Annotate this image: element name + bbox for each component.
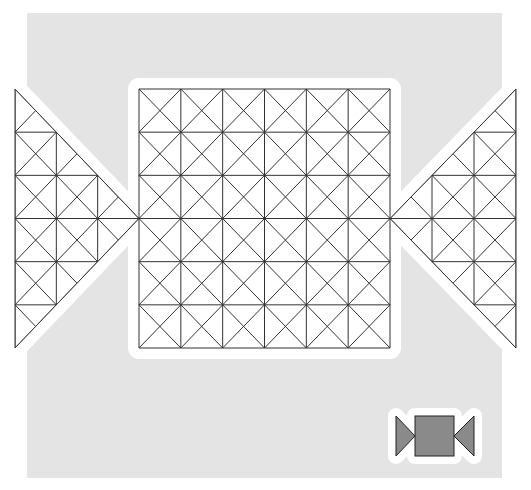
center-square-piece[interactable] [139,89,390,348]
thumbnail-square-icon [415,416,454,456]
shape-preview-thumbnail[interactable] [386,400,486,472]
